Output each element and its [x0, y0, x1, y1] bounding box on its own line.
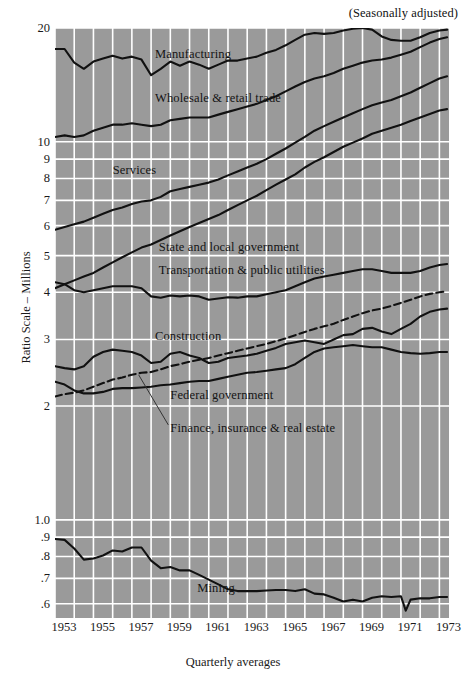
- series-label-finance-insurance-real-estate: Finance, insurance & real estate: [170, 421, 335, 436]
- series-label-transportation-public-utilities: Transportation & public utilities: [159, 263, 325, 278]
- y-tick-label: .9: [6, 531, 50, 544]
- y-tick-label: 10: [6, 136, 50, 149]
- x-tick-label: 1957: [128, 620, 153, 635]
- x-tick-label: 1969: [359, 620, 384, 635]
- y-tick-label: 4: [6, 286, 50, 299]
- y-tick-label: 7: [6, 194, 50, 207]
- x-tick-label: 1965: [282, 620, 307, 635]
- x-tick-label: 1963: [244, 620, 269, 635]
- series-label-manufacturing: Manufacturing: [155, 47, 231, 62]
- seasonally-adjusted-note: (Seasonally adjusted): [349, 6, 458, 21]
- plot-area: [55, 28, 449, 618]
- y-tick-label: 2: [6, 400, 50, 413]
- x-tick-label: 1955: [90, 620, 115, 635]
- y-tick-label: .8: [6, 550, 50, 563]
- series-label-federal-government: Federal government: [170, 388, 273, 403]
- y-axis-ticks: 2010987654321.0.9.8.7.6: [0, 0, 50, 686]
- y-tick-label: .6: [6, 597, 50, 610]
- series-label-mining: Mining: [197, 581, 235, 596]
- series-label-construction: Construction: [155, 329, 221, 344]
- x-tick-label: 1973: [436, 620, 461, 635]
- y-tick-label: 1.0: [6, 514, 50, 527]
- series-label-services: Services: [113, 163, 157, 178]
- x-axis-title: Quarterly averages: [0, 655, 466, 670]
- chart-svg: [55, 28, 449, 618]
- x-tick-label: 1967: [321, 620, 346, 635]
- y-tick-label: 3: [6, 333, 50, 346]
- series-label-state-and-local-government: State and local government: [159, 240, 299, 255]
- y-tick-label: 6: [6, 219, 50, 232]
- y-tick-label: 20: [6, 22, 50, 35]
- x-tick-label: 1953: [52, 620, 77, 635]
- y-tick-label: .7: [6, 572, 50, 585]
- x-tick-label: 1961: [205, 620, 230, 635]
- x-tick-label: 1971: [397, 620, 422, 635]
- y-tick-label: 9: [6, 153, 50, 166]
- chart-root: (Seasonally adjusted) Ratio Scale – Mill…: [0, 0, 466, 686]
- y-tick-label: 5: [6, 249, 50, 262]
- series-label-wholesale-retail-trade: Wholesale & retail trade: [155, 91, 281, 106]
- y-tick-label: 8: [6, 172, 50, 185]
- x-tick-label: 1959: [167, 620, 192, 635]
